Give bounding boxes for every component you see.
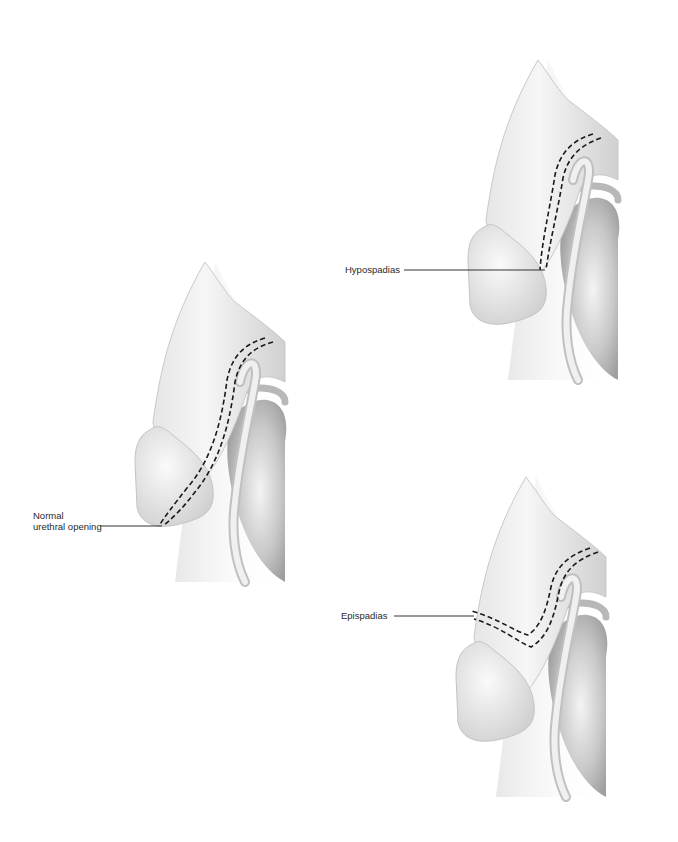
normal-label-line2: urethral opening bbox=[33, 521, 102, 532]
epispadias-label: Epispadias bbox=[341, 610, 387, 621]
epispadias-figure bbox=[456, 477, 607, 797]
hypospadias-label: Hypospadias bbox=[345, 264, 400, 275]
hypospadias-figure bbox=[468, 60, 619, 380]
normal-figure bbox=[135, 262, 286, 582]
normal-label-line1: Normal bbox=[33, 510, 102, 521]
normal-urethral-opening-label: Normal urethral opening bbox=[33, 510, 102, 532]
anatomy-illustration bbox=[0, 0, 678, 842]
